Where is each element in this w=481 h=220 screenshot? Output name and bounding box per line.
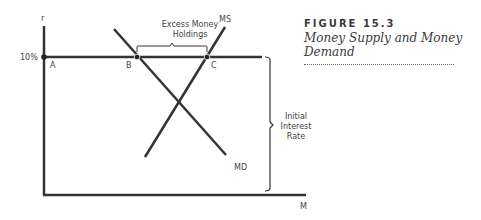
figure-caption: FIGURE 15.3 Money Supply and Money Deman… (304, 18, 474, 65)
y-axis-label: r (41, 14, 44, 24)
point-c-label: C (211, 61, 217, 71)
point-b-label: B (126, 61, 132, 71)
point-a-marker (41, 54, 47, 60)
initial-rate-annotation: Initial Interest Rate (276, 112, 316, 142)
point-a-label: A (50, 61, 55, 71)
initial-line-3: Rate (276, 132, 316, 142)
point-b-marker (134, 54, 140, 60)
rate-tick-label: 10% (20, 53, 38, 63)
initial-rate-bracket (265, 57, 273, 191)
md-label: MD (234, 163, 247, 173)
caption-divider (304, 64, 454, 65)
initial-line-1: Initial (276, 112, 316, 122)
md-curve (114, 29, 226, 155)
figure-title: Money Supply and Money Demand (304, 31, 464, 59)
excess-bracket (137, 43, 207, 52)
initial-line-2: Interest (276, 122, 316, 132)
point-c-marker (204, 54, 210, 60)
figure-number: FIGURE 15.3 (304, 18, 474, 29)
excess-money-annotation: Excess Money Holdings (145, 20, 235, 40)
excess-line-2: Holdings (145, 30, 235, 40)
excess-line-1: Excess Money (145, 20, 235, 30)
x-axis-label: M (300, 202, 307, 212)
